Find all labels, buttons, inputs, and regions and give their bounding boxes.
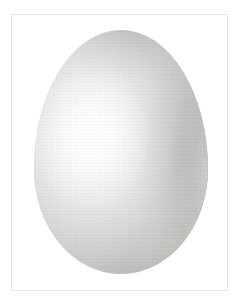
egg-body [34,30,208,274]
egg-figure [34,30,208,274]
image-caption: Egg [0,0,1,1]
image-canvas: Egg [0,0,244,308]
plate-border [11,14,228,291]
plate-surface [12,15,227,290]
